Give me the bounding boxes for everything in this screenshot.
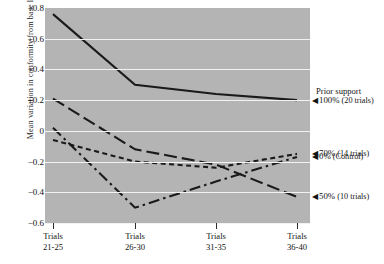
legend-note: (10 trials) [335, 192, 369, 201]
x-tick-label-line: Trials [287, 231, 307, 242]
legend-item: ◀100% (20 trials) [312, 95, 374, 105]
legend-percent: 0% [319, 151, 331, 161]
legend-percent: 50% [319, 191, 335, 201]
y-axis-tick-labels: +0.8+0.6+0.4+0.20−0.2−0.4−0.6 [8, 0, 44, 230]
x-tick-label-line: 36-40 [287, 242, 307, 253]
x-tick-label: Trials36-40 [287, 231, 307, 253]
x-tick-label-line: Trials [125, 231, 145, 242]
x-tick-label-line: 21-25 [43, 242, 63, 253]
y-tick-label: −0.4 [28, 187, 44, 197]
legend-percent: 100% [319, 95, 340, 105]
x-tick-label: Trials21-25 [43, 231, 63, 253]
y-tick-label: 0 [40, 126, 45, 136]
series-line [53, 128, 297, 208]
legend-pointer-icon: ◀ [312, 152, 318, 161]
legend-item: ◀50% (10 trials) [312, 191, 369, 201]
x-tick-label-line: Trials [206, 231, 226, 242]
x-tick-mark [216, 223, 217, 229]
legend-item: ◀0% (Control) [312, 151, 363, 161]
legend-note: (Control) [331, 152, 364, 161]
x-tick-mark [53, 223, 54, 229]
gridline [45, 192, 310, 193]
series-line [53, 99, 297, 197]
x-axis-tick-labels: Trials21-25Trials26-30Trials31-35Trials3… [0, 231, 384, 261]
y-tick-label: +0.4 [28, 64, 44, 74]
x-axis-tick-marks [45, 223, 310, 231]
y-tick-label: −0.2 [28, 157, 44, 167]
x-tick-label-line: 31-35 [206, 242, 226, 253]
gridline [45, 131, 310, 132]
x-tick-label: Trials26-30 [125, 231, 145, 253]
x-tick-label-line: 26-30 [125, 242, 145, 253]
gridline [45, 162, 310, 163]
y-tick-label: −0.6 [28, 218, 44, 228]
series-line [53, 14, 297, 100]
x-tick-label-line: Trials [43, 231, 63, 242]
legend-pointer-icon: ◀ [312, 192, 318, 201]
x-tick-mark [297, 223, 298, 229]
plot-area [45, 8, 310, 223]
x-tick-label: Trials31-35 [206, 231, 226, 253]
gridline [45, 39, 310, 40]
y-tick-label: +0.8 [28, 3, 44, 13]
y-tick-label: +0.2 [28, 95, 44, 105]
gridline [45, 69, 310, 70]
x-tick-mark [135, 223, 136, 229]
legend-note: (20 trials) [340, 96, 374, 105]
y-tick-label: +0.6 [28, 34, 44, 44]
legend: Prior support ◀100% (20 trials)◀50% (10 … [312, 0, 384, 230]
gridline [45, 100, 310, 101]
legend-pointer-icon: ◀ [312, 96, 318, 105]
conformity-line-chart: Mean variation in conformity from base l… [0, 0, 384, 264]
series-lines [45, 8, 310, 223]
